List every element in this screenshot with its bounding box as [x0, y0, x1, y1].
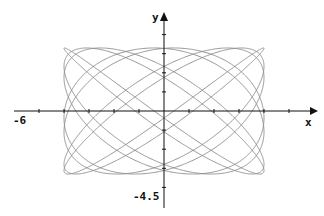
lissajous-plot — [0, 0, 324, 216]
x-min-label: -6 — [13, 115, 26, 126]
y-axis-arrow-icon — [160, 12, 168, 21]
x-axis-arrow-icon — [310, 107, 318, 115]
axes — [14, 12, 318, 208]
y-axis-label: y — [152, 12, 159, 23]
y-min-label: -4.5 — [133, 191, 160, 202]
x-axis-label: x — [305, 117, 312, 128]
